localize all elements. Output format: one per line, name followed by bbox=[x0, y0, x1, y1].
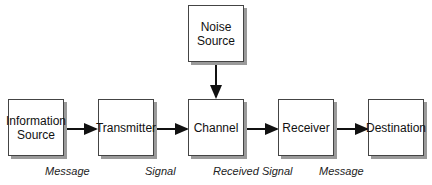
label-signal: Signal bbox=[145, 165, 176, 177]
node-noise-source: Noise Source bbox=[188, 5, 244, 62]
node-label: Noise Source bbox=[197, 20, 235, 48]
label-received-signal: Received Signal bbox=[213, 165, 293, 177]
node-label: Channel bbox=[194, 121, 239, 135]
node-channel: Channel bbox=[188, 99, 244, 156]
node-label: Information Source bbox=[6, 114, 66, 142]
node-receiver: Receiver bbox=[278, 99, 334, 156]
label-message-2: Message bbox=[319, 165, 364, 177]
label-message-1: Message bbox=[45, 165, 90, 177]
node-transmitter: Transmitter bbox=[98, 99, 154, 156]
node-label: Receiver bbox=[282, 121, 329, 135]
node-label: Transmitter bbox=[96, 121, 156, 135]
node-label: Destination bbox=[366, 121, 426, 135]
node-destination: Destination bbox=[368, 99, 424, 156]
node-information-source: Information Source bbox=[8, 99, 64, 156]
